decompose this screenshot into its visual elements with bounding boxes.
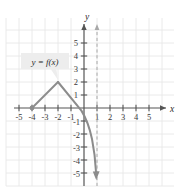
plot-canvas: -5 -4 -3 -2 -1 1 2 3 4 5 5 4 3 2 1 -1 -2… [0, 0, 185, 195]
y-tick-label: -3 [73, 143, 80, 153]
x-tick-label: 5 [147, 112, 151, 122]
x-tick-label: 4 [134, 112, 139, 122]
axis-lines [14, 24, 166, 186]
y-tick-label: -2 [73, 130, 80, 140]
closed-endpoint-dot [30, 106, 35, 111]
x-tick-label: 2 [108, 112, 112, 122]
x-axis-arrow [160, 105, 166, 110]
x-tick-label: -5 [15, 112, 22, 122]
curve-down-arrowhead [93, 171, 100, 180]
y-tick-label: -4 [73, 156, 81, 166]
grid-lines [6, 18, 174, 186]
x-tick-label: -4 [28, 112, 36, 122]
x-axis-label: x [169, 104, 175, 114]
x-tick-label: 3 [121, 112, 125, 122]
y-tick-label: -1 [73, 117, 80, 127]
y-tick-label: 3 [74, 64, 78, 74]
x-tick-label: -3 [41, 112, 48, 122]
callout-label: y = f(x) [30, 57, 58, 67]
graph-figure: -5 -4 -3 -2 -1 1 2 3 4 5 5 4 3 2 1 -1 -2… [0, 0, 185, 195]
y-tick-label: 5 [74, 38, 78, 48]
x-tick-label: -2 [54, 112, 61, 122]
y-axis-arrow [81, 24, 86, 30]
y-tick-label: 1 [74, 90, 78, 100]
y-tick-label: -5 [73, 169, 80, 179]
y-tick-label: 2 [74, 77, 78, 87]
y-axis-label: y [84, 12, 90, 22]
